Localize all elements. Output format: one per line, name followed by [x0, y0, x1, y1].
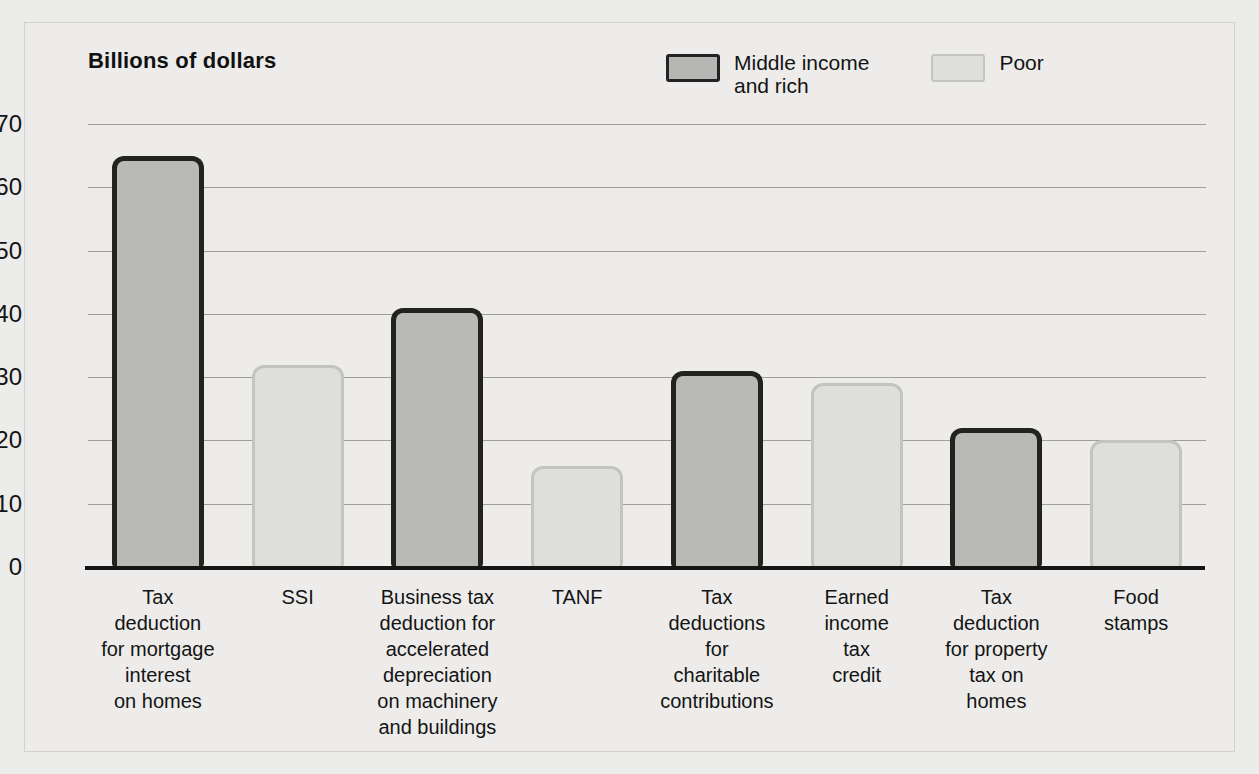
- legend-swatch-light-icon: [931, 54, 985, 82]
- bar[interactable]: [811, 383, 903, 567]
- x-axis-label: Tax deduction for property tax on homes: [927, 584, 1067, 714]
- y-axis-tick-70: 70: [0, 110, 22, 138]
- x-axis-label: Tax deductions for charitable contributi…: [647, 584, 787, 714]
- y-axis-tick-40: 40: [0, 300, 22, 328]
- chart-legend: Middle income and rich Poor: [666, 52, 1044, 97]
- chart-figure: Billions of dollars Middle income and ri…: [0, 0, 1259, 774]
- bar-group[interactable]: [368, 124, 508, 567]
- bar[interactable]: [671, 371, 763, 567]
- plot-area: 010203040506070: [88, 124, 1206, 567]
- y-axis-tick-0: 0: [0, 553, 22, 581]
- bar[interactable]: [950, 428, 1042, 567]
- x-axis-label: Food stamps: [1066, 584, 1206, 636]
- legend-swatch-dark-icon: [666, 54, 720, 82]
- legend-label-poor: Poor: [999, 52, 1043, 75]
- chart-title: Billions of dollars: [88, 48, 276, 74]
- x-axis-label: TANF: [507, 584, 647, 610]
- bar-group[interactable]: [647, 124, 787, 567]
- bar-group[interactable]: [228, 124, 368, 567]
- x-axis-line: [85, 566, 1205, 570]
- y-axis-tick-10: 10: [0, 490, 22, 518]
- x-axis-label: Tax deduction for mortgage interest on h…: [88, 584, 228, 714]
- x-axis-labels: Tax deduction for mortgage interest on h…: [88, 584, 1206, 764]
- legend-item-middle-income-and-rich: Middle income and rich: [666, 52, 869, 97]
- bar-group[interactable]: [1066, 124, 1206, 567]
- bar[interactable]: [391, 308, 483, 567]
- bar[interactable]: [252, 365, 344, 568]
- x-axis-label: Business tax deduction for accelerated d…: [368, 584, 508, 740]
- bar-group[interactable]: [927, 124, 1067, 567]
- bar-group[interactable]: [88, 124, 228, 567]
- y-axis-tick-20: 20: [0, 426, 22, 454]
- legend-item-poor: Poor: [931, 52, 1043, 82]
- y-axis-tick-30: 30: [0, 363, 22, 391]
- y-axis-tick-50: 50: [0, 237, 22, 265]
- x-axis-label: SSI: [228, 584, 368, 610]
- y-axis-tick-60: 60: [0, 173, 22, 201]
- bar-group[interactable]: [787, 124, 927, 567]
- legend-label-middle-income-and-rich: Middle income and rich: [734, 52, 869, 97]
- x-axis-label: Earned income tax credit: [787, 584, 927, 688]
- bar-group[interactable]: [507, 124, 647, 567]
- bar[interactable]: [112, 156, 204, 567]
- bar[interactable]: [1090, 440, 1182, 567]
- bar[interactable]: [531, 466, 623, 567]
